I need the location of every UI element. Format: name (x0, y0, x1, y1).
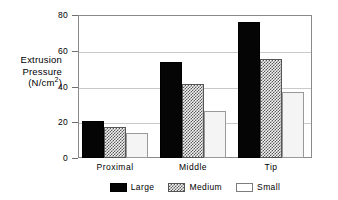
bar-proximal-small (126, 133, 148, 158)
legend-swatch-small (236, 183, 253, 192)
x-axis-label-tip: Tip (224, 163, 318, 172)
legend-entry-medium: Medium (168, 183, 222, 192)
legend-swatch-medium (168, 183, 185, 192)
legend-swatch-large (110, 183, 127, 192)
y-tick-label: 0 (42, 154, 68, 163)
legend-entry-large: Large (110, 183, 155, 192)
bar-middle-large (160, 62, 182, 158)
y-tick-label: 60 (42, 47, 68, 56)
legend-label-large: Large (131, 183, 155, 192)
bar-middle-small (204, 111, 226, 158)
legend-label-medium: Medium (189, 183, 222, 192)
legend-entry-small: Small (236, 183, 280, 192)
bar-tip-medium (260, 59, 282, 158)
bar-middle-medium (182, 84, 204, 158)
y-tick-label: 20 (42, 118, 68, 127)
bar-chart-figure: Extrusion Pressure (N/cm2) 806040200 Pro… (0, 0, 338, 200)
y-axis-title-line-2: Pressure (2, 66, 62, 78)
bar-proximal-medium (104, 127, 126, 158)
bar-proximal-large (82, 121, 104, 158)
y-tick-mark (72, 158, 78, 159)
bar-tip-small (282, 92, 304, 158)
legend-label-small: Small (257, 183, 280, 192)
chart-legend: LargeMediumSmall (78, 180, 312, 194)
y-tick-label: 40 (42, 83, 68, 92)
bars-layer (78, 15, 312, 158)
y-tick-label: 80 (42, 11, 68, 20)
y-axis-title-line-1: Extrusion (2, 54, 62, 66)
bar-tip-large (238, 22, 260, 158)
